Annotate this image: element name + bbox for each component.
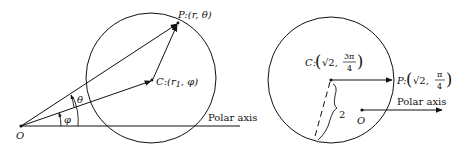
point-P-label: P:(r, θ) (177, 9, 212, 20)
right-point-C-label: C: ( √2, 3π 4 ) (305, 52, 363, 73)
svg-text:√2,: √2, (413, 75, 429, 86)
vector-CP (153, 25, 177, 79)
right-point-P-label: P: ( √2, π 4 ) (396, 70, 452, 91)
left-axis-label: Polar axis (208, 112, 257, 123)
svg-text:4: 4 (437, 82, 442, 91)
svg-text:√2,: √2, (322, 57, 338, 68)
paren-close: ) (357, 52, 363, 71)
angle-theta-arc (71, 95, 74, 107)
angle-phi-label: φ (64, 114, 71, 125)
radius-label: 2 (339, 109, 345, 120)
left-origin-label: O (16, 130, 24, 141)
right-origin-label: O (357, 115, 365, 126)
radius-dashed (314, 82, 330, 140)
point-C-dot (151, 79, 154, 82)
left-figure: O φ θ P:(r, θ) C:(r1, φ) Polar axis (16, 9, 257, 143)
right-axis-label: Polar axis (397, 96, 446, 107)
angle-phi-arc (59, 113, 61, 126)
paren-open: ( (406, 70, 412, 89)
point-P-dot (177, 22, 180, 25)
svg-text:π: π (437, 70, 442, 79)
svg-text:3π: 3π (344, 52, 354, 61)
point-C-label: C:(r1, φ) (156, 76, 198, 89)
paren-close: ) (446, 70, 452, 89)
right-origin-dot (360, 108, 363, 111)
svg-text:4: 4 (347, 64, 352, 73)
vector-OC (21, 81, 151, 126)
paren-open: ( (315, 52, 321, 71)
angle-theta-label: θ (77, 94, 83, 105)
right-point-C-dot (329, 78, 332, 81)
right-figure: 2 O Polar axis C: ( √2, 3π 4 ) P: ( √2, … (268, 17, 452, 143)
polar-diagrams: O φ θ P:(r, θ) C:(r1, φ) Polar axis 2 O … (0, 0, 460, 156)
